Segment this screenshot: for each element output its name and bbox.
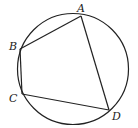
cyclic-quadrilateral-diagram: A B C D bbox=[0, 0, 138, 128]
point-label-b: B bbox=[8, 40, 17, 53]
segment-ab bbox=[20, 16, 81, 49]
point-label-a: A bbox=[76, 2, 85, 15]
point-label-c: C bbox=[9, 92, 18, 105]
segment-da bbox=[81, 16, 109, 110]
circumscribed-circle bbox=[18, 14, 129, 125]
point-label-d: D bbox=[111, 110, 121, 123]
segment-cd bbox=[22, 94, 109, 110]
